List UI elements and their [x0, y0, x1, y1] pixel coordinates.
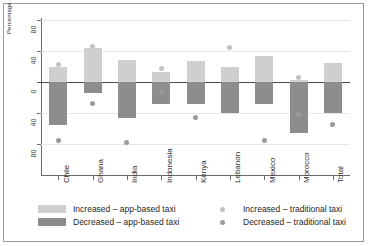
bar-decreased-app-ghana [84, 82, 102, 93]
legend-item-decreased-traditional: Decreased – traditional taxi [208, 216, 346, 228]
legend-label-decreased-traditional: Decreased – traditional taxi [243, 217, 346, 227]
bar-increased-app-kenya [187, 61, 205, 82]
x-tick-label-kenya: Kenya [199, 160, 208, 183]
plot-area [41, 20, 350, 144]
bar-increased-app-total [324, 63, 342, 82]
chart-legend: Increased – app-based taxi Decreased – a… [30, 203, 340, 235]
legend-label-increased-app: Increased – app-based taxi [73, 204, 176, 214]
x-tick-label-india: India [130, 166, 139, 183]
y-tick-label: 80 [30, 143, 37, 165]
bar-increased-app-indonesia [152, 72, 170, 82]
y-axis-title: Percentage of respondents [6, 0, 12, 34]
legend-dot-decreased-traditional [208, 220, 236, 225]
x-tick [161, 176, 162, 180]
x-tick [93, 176, 94, 180]
x-tick-label-ghana: Ghana [96, 159, 105, 183]
chart-figure: Percentage of respondents 804004080 Chil… [0, 0, 368, 246]
gridline [41, 20, 350, 21]
x-tick-label-total: Total [336, 166, 345, 183]
y-tick-label: 0 [30, 81, 37, 103]
dot-increased-traditional-ghana [90, 44, 95, 49]
x-tick [299, 176, 300, 180]
legend-label-increased-traditional: Increased – traditional taxi [243, 204, 342, 214]
x-tick [58, 176, 59, 180]
bar-decreased-app-india [118, 82, 136, 118]
x-tick [230, 176, 231, 180]
bar-decreased-app-mexico [255, 82, 273, 104]
dot-decreased-traditional-kenya [193, 115, 198, 120]
bar-increased-app-lebanon [221, 67, 239, 82]
bar-decreased-app-morocco [290, 82, 308, 133]
y-tick-label: 80 [30, 19, 37, 41]
dot-decreased-traditional-chile [56, 138, 61, 143]
legend-item-increased-app: Increased – app-based taxi [38, 203, 176, 215]
x-tick-label-morocco: Morocco [302, 152, 311, 183]
legend-swatch-decreased-app [38, 218, 66, 226]
plot-series-layer [41, 20, 350, 144]
dot-decreased-traditional-mexico [262, 138, 267, 143]
dot-increased-traditional-indonesia [159, 66, 164, 71]
legend-label-decreased-app: Decreased – app-based taxi [73, 217, 179, 227]
x-tick-label-indonesia: Indonesia [165, 148, 174, 183]
dot-increased-traditional-morocco [296, 75, 301, 80]
x-tick-label-lebanon: Lebanon [233, 152, 242, 183]
legend-dot-increased-traditional [208, 207, 236, 212]
x-tick-label-chile: Chile [62, 165, 71, 183]
dot-decreased-traditional-ghana [90, 101, 95, 106]
bar-decreased-app-lebanon [221, 82, 239, 113]
dot-increased-traditional-lebanon [227, 45, 232, 50]
y-tick-label: 40 [30, 50, 37, 72]
x-tick [196, 176, 197, 180]
bar-decreased-app-total [324, 82, 342, 113]
dot-decreased-traditional-total [330, 122, 335, 127]
bar-decreased-app-kenya [187, 82, 205, 104]
y-tick-label: 40 [30, 112, 37, 134]
legend-item-increased-traditional: Increased – traditional taxi [208, 203, 342, 215]
legend-swatch-increased-app [38, 205, 66, 213]
bar-increased-app-mexico [255, 56, 273, 82]
x-tick [333, 176, 334, 180]
x-tick [127, 176, 128, 180]
gridline [41, 144, 350, 145]
bar-increased-app-chile [49, 67, 67, 82]
bar-increased-app-india [118, 60, 136, 82]
bar-increased-app-ghana [84, 48, 102, 82]
x-tick [264, 176, 265, 180]
legend-item-decreased-app: Decreased – app-based taxi [38, 216, 179, 228]
bar-decreased-app-chile [49, 82, 67, 125]
x-tick-label-mexico: Mexico [268, 158, 277, 183]
